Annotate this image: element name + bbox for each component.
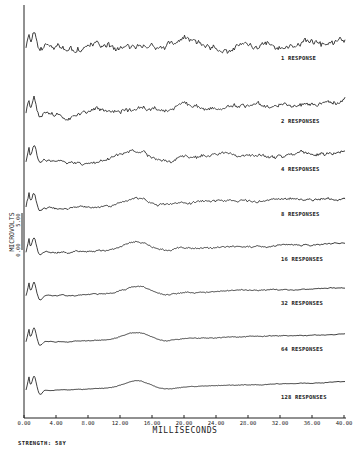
trace-label: 64 RESPONSES — [281, 346, 323, 352]
trace-label: 4 RESPONSES — [281, 166, 320, 172]
trace-2-responses — [26, 96, 345, 120]
x-axis-title: MILLISECONDS — [153, 426, 218, 435]
trace-128-responses — [26, 376, 345, 394]
evoked-response-chart: 1 RESPONSE2 RESPONSES4 RESPONSES8 RESPON… — [0, 0, 362, 451]
x-tick-label: 28.00 — [240, 420, 257, 426]
x-tick-label: 8.00 — [81, 420, 94, 426]
trace-label: 16 RESPONSES — [281, 256, 323, 262]
x-tick-label: 32.00 — [272, 420, 289, 426]
trace-16-responses — [26, 238, 345, 255]
strength-label: STRENGTH: 58Y — [18, 440, 66, 446]
x-tick-label: 40.00 — [336, 420, 353, 426]
trace-64-responses — [26, 328, 345, 346]
x-tick-label: 12.00 — [112, 420, 129, 426]
x-ticks: 0.004.008.0012.0016.0020.0024.0028.0032.… — [17, 415, 352, 426]
trace-32-responses — [26, 282, 345, 300]
trace-label: 8 RESPONSES — [281, 211, 320, 217]
svg-text:0.00: 0.00 — [15, 243, 21, 256]
trace-label: 1 RESPONSE — [281, 55, 316, 61]
trace-8-responses — [26, 193, 345, 211]
trace-label: 128 RESPONSES — [281, 394, 327, 400]
trace-1-responses — [26, 33, 345, 54]
x-tick-label: 36.00 — [304, 420, 321, 426]
trace-label: 2 RESPONSES — [281, 118, 320, 124]
trace-label: 32 RESPONSES — [281, 300, 323, 306]
trace-labels: 1 RESPONSE2 RESPONSES4 RESPONSES8 RESPON… — [281, 55, 327, 400]
trace-4-responses — [26, 146, 345, 166]
x-tick-label: 4.00 — [49, 420, 62, 426]
svg-text:5.00: 5.00 — [15, 213, 21, 226]
x-tick-label: 0.00 — [17, 420, 30, 426]
